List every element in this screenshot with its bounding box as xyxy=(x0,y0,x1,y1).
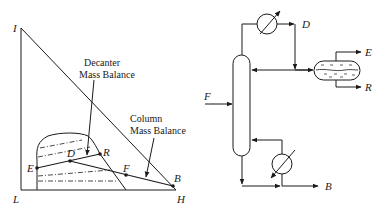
column-pointer-arrow xyxy=(146,138,154,177)
point-D xyxy=(68,159,72,163)
stream-label-F: F xyxy=(203,90,211,102)
point-label-F: F xyxy=(122,162,130,174)
figure-canvas: I L H E D R F B Decanter Mass Balance Co… xyxy=(0,0,390,207)
raffinate-line xyxy=(336,80,361,87)
vertex-label-I: I xyxy=(12,22,18,34)
stream-label-E: E xyxy=(364,46,372,58)
column-annotation-line1: Column xyxy=(130,113,162,124)
decanter-pointer-arrow xyxy=(87,80,94,155)
overhead-line xyxy=(242,24,257,55)
point-R xyxy=(98,152,102,156)
decanter-annotation-line2: Mass Balance xyxy=(79,69,135,80)
point-label-B: B xyxy=(174,172,181,184)
stream-label-R: R xyxy=(364,81,372,93)
binodal-curve xyxy=(37,133,126,190)
process-flowsheet xyxy=(205,11,361,186)
stream-label-D: D xyxy=(301,18,310,30)
point-B xyxy=(171,184,175,188)
condenser xyxy=(257,14,277,34)
distillation-column xyxy=(233,55,250,156)
point-label-E: E xyxy=(26,162,34,174)
triangle-outline xyxy=(21,28,176,190)
extract-line xyxy=(336,52,361,61)
point-label-R: R xyxy=(102,146,110,158)
vertex-label-H: H xyxy=(176,193,186,205)
column-balance-line xyxy=(70,161,173,186)
ternary-diagram xyxy=(21,28,176,190)
reboiler-return-line xyxy=(252,140,282,154)
point-label-D: D xyxy=(66,147,75,159)
column-annotation-line2: Mass Balance xyxy=(130,125,186,136)
point-E xyxy=(35,166,39,170)
decanter-annotation-line1: Decanter xyxy=(84,57,121,68)
vertex-label-L: L xyxy=(12,193,19,205)
stream-label-B: B xyxy=(325,180,332,192)
